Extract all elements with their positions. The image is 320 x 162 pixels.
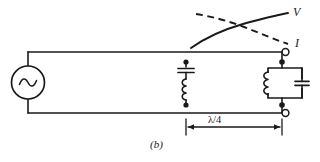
voltage-curve <box>191 13 288 48</box>
series-lc-branch <box>178 59 194 107</box>
bottom-open-terminal <box>282 110 289 117</box>
series-branch-bottom-node <box>183 102 188 107</box>
dimension-arrow-right <box>274 124 280 129</box>
figure-container: V I λ/4 (b) <box>0 0 320 162</box>
voltage-curve-label: V <box>293 5 300 20</box>
inductor-coil-series <box>182 79 186 100</box>
quarter-wavelength-label: λ/4 <box>206 114 223 125</box>
figure-caption: (b) <box>150 138 163 150</box>
inductor-mask <box>265 73 273 93</box>
top-open-terminal <box>282 49 289 56</box>
quarter-wavelength-dimension <box>186 119 282 135</box>
parallel-lc-tank <box>264 52 310 113</box>
dimension-arrow-left <box>188 124 194 129</box>
standing-wave-curves <box>191 13 288 48</box>
current-curve <box>196 14 288 44</box>
current-curve-label: I <box>295 36 299 51</box>
ac-source <box>12 66 45 99</box>
circuit-loop-wires <box>28 52 282 113</box>
